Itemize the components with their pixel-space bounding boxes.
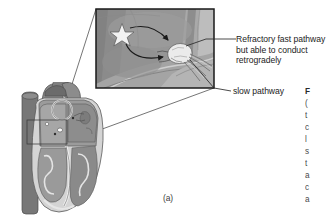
caption-line: F (305, 86, 328, 98)
label-fast-line-1: Refractory fast pathway (236, 34, 325, 45)
caption-line: t (305, 158, 328, 170)
label-fast-line-2: but able to conduct (236, 45, 325, 56)
figure-caption-clipped: F(tclstacaE (305, 86, 328, 206)
sa-node-marker (45, 122, 48, 125)
illustration-svg (0, 0, 328, 220)
label-refractory-fast-pathway: Refractory fast pathway but able to cond… (236, 34, 325, 66)
right-atrium (40, 104, 66, 146)
caption-line: c (305, 122, 328, 134)
label-slow-pathway: slow pathway (233, 86, 284, 97)
caption-line: t (305, 110, 328, 122)
caption-line: s (305, 146, 328, 158)
panel-label: (a) (163, 193, 173, 204)
caption-line: c (305, 182, 328, 194)
heart-cross-section (22, 77, 103, 214)
inset-tissue-shade-2 (102, 46, 162, 78)
caption-line: a (305, 170, 328, 182)
caption-line: ( (305, 98, 328, 110)
pathway-dot-upper (72, 117, 74, 119)
av-node-marker (57, 128, 62, 132)
vena-cava-mouth (22, 93, 38, 99)
inset-panel (96, 9, 214, 88)
figure-panel-a: Refractory fast pathway but able to cond… (0, 0, 328, 220)
caption-line: a (305, 194, 328, 206)
label-fast-line-3: retrogradely (236, 55, 325, 66)
pathway-dot-lower (54, 133, 56, 135)
caption-line: l (305, 134, 328, 146)
